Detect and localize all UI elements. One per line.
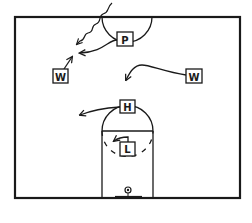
cut-path-l bbox=[114, 137, 128, 142]
player-h-label: H bbox=[123, 102, 131, 113]
player-p: P bbox=[117, 32, 133, 46]
player-l-label: L bbox=[124, 144, 131, 155]
basketball-play-diagram: P W W H L bbox=[0, 0, 252, 223]
cut-path-h bbox=[80, 107, 120, 115]
cut-path-w-left bbox=[64, 57, 72, 69]
player-w-left: W bbox=[53, 69, 68, 83]
basket-center bbox=[127, 189, 129, 191]
player-p-label: P bbox=[121, 35, 128, 46]
player-w-left-label: W bbox=[55, 72, 66, 83]
player-w-right: W bbox=[186, 69, 202, 83]
cut-path-w-right bbox=[126, 65, 186, 80]
player-h: H bbox=[120, 100, 135, 113]
player-w-right-label: W bbox=[188, 72, 199, 83]
dribble-path bbox=[77, 3, 112, 44]
pass-path-p bbox=[80, 40, 117, 53]
player-l: L bbox=[120, 142, 135, 156]
